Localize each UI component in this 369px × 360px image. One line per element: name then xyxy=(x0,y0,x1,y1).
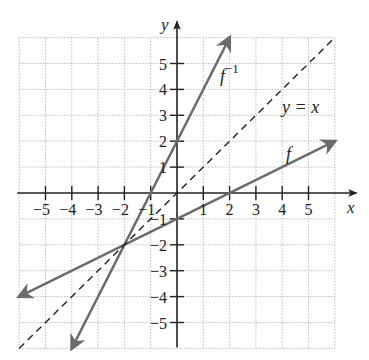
x-axis-label: x xyxy=(346,198,355,217)
y-tick-label: −3 xyxy=(150,263,167,280)
y-tick-label: −1 xyxy=(150,211,167,228)
y-tick-label: 1 xyxy=(159,159,167,176)
axes xyxy=(17,22,356,347)
x-tick-label: −5 xyxy=(33,201,50,218)
y-axis-label: y xyxy=(159,15,169,34)
x-tick-label: 2 xyxy=(226,201,234,218)
y-tick-label: −2 xyxy=(150,237,167,254)
function-inverse-plot: −5−4−3−2−112345−5−4−3−2−112345xyff−1y = … xyxy=(0,0,369,360)
label-y-equals-x: y = x xyxy=(280,97,319,117)
x-tick-label: 4 xyxy=(278,201,286,218)
x-tick-label: 1 xyxy=(199,201,207,218)
x-tick-label: −2 xyxy=(112,201,129,218)
y-tick-label: −5 xyxy=(150,315,167,332)
label-f-inverse: f−1 xyxy=(220,61,239,86)
x-tick-label: −4 xyxy=(59,201,76,218)
x-tick-label: 5 xyxy=(305,201,313,218)
x-tick-label: 3 xyxy=(252,201,260,218)
y-tick-label: 2 xyxy=(159,133,167,150)
label-f-inverse-superscript: −1 xyxy=(225,61,239,76)
x-tick-label: −3 xyxy=(86,201,103,218)
y-tick-label: −4 xyxy=(150,289,167,306)
labels-layer: −5−4−3−2−112345−5−4−3−2−112345xyff−1y = … xyxy=(33,15,355,332)
y-tick-label: 3 xyxy=(159,107,167,124)
y-tick-label: 5 xyxy=(159,56,167,73)
y-tick-label: 4 xyxy=(159,81,167,98)
